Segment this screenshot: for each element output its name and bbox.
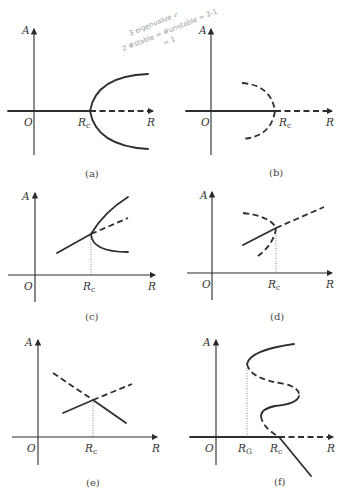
upper-stable-branch [91, 197, 128, 234]
rc-label: Rc [84, 442, 97, 456]
caption: (a) [85, 168, 99, 179]
bifurcation-diagram-figure: 3 eigenvalue ✓ 2 #stable = #unstable = 2… [0, 0, 345, 491]
note-line-3: = 1 [162, 35, 177, 47]
rc-label: Rc [278, 116, 291, 130]
origin-label: O [205, 442, 214, 454]
rg-label: RG [237, 442, 252, 456]
caption: (b) [269, 167, 283, 178]
origin-label: O [202, 278, 211, 290]
caption: (e) [86, 477, 100, 488]
panel-d: A O Rc R (d) [187, 189, 334, 322]
origin-label: O [24, 116, 33, 128]
rc-label: Rc [82, 280, 95, 294]
panel-b: A O Rc R (b) [186, 24, 334, 178]
stable-branch-1 [93, 400, 126, 423]
unstable-continuation [276, 207, 324, 228]
caption: (c) [85, 311, 99, 322]
y-axis-label: A [199, 189, 208, 201]
stable-branch [57, 234, 91, 253]
origin-label: O [27, 442, 36, 454]
y-axis-label: A [198, 24, 207, 36]
rc-label: Rc [267, 278, 280, 292]
x-axis-label: R [147, 280, 156, 292]
x-axis-label: R [146, 116, 155, 128]
x-axis-label: R [151, 442, 160, 454]
panel-e: A O Rc R (e) [12, 336, 160, 488]
panel-f: A O RG Rc R (f) [190, 336, 335, 487]
upper-stable-branch [247, 344, 294, 364]
middle-unstable-branch [247, 364, 299, 396]
y-axis-label: A [24, 336, 33, 348]
unstable-branch-2 [93, 384, 132, 400]
caption: (d) [270, 311, 284, 322]
x-axis-label: R [326, 442, 335, 454]
middle-stable-branch [261, 396, 299, 416]
y-axis-label: A [202, 336, 211, 348]
origin-label: O [201, 116, 210, 128]
x-axis-label: R [325, 278, 334, 290]
lower-stable-branch [279, 437, 311, 476]
lower-unstable-branch [261, 416, 279, 437]
panel-c: A O Rc R (c) [8, 190, 156, 322]
lower-stable-branch [91, 234, 128, 252]
y-axis-label: A [21, 24, 30, 36]
x-axis-label: R [325, 116, 334, 128]
origin-label: O [24, 280, 33, 292]
unstable-branch-1 [53, 373, 93, 400]
rc-label: Rc [77, 116, 90, 130]
rc-label: Rc [269, 442, 282, 456]
upper-unstable-fold [243, 213, 276, 228]
y-axis-label: A [21, 190, 30, 202]
caption: (f) [274, 476, 286, 487]
stable-branch-2 [63, 400, 93, 413]
